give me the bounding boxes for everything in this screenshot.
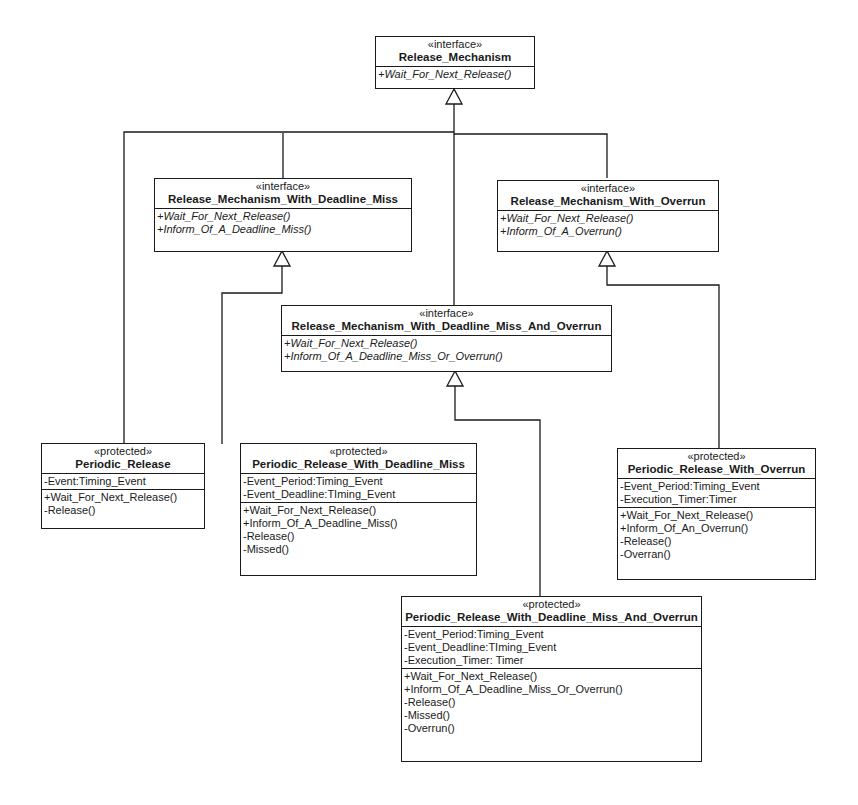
class-periodic-release: «protected» Periodic_Release -Event:Timi… [41,443,205,529]
stereotype-label: «protected» [243,445,474,458]
operations-section: +Wait_For_Next_Release() +Inform_Of_A_De… [282,336,611,364]
operation: +Inform_Of_A_Overrun() [500,225,716,238]
stereotype-label: «protected» [620,450,813,463]
attribute: -Event:Timing_Event [44,475,202,488]
operation: +Inform_Of_A_Deadline_Miss_Or_Overrun() [284,350,609,363]
operation: +Wait_For_Next_Release() [500,212,716,225]
class-name: Release_Mechanism_With_Deadline_Miss_And… [284,320,609,333]
operation: +Inform_Of_A_Deadline_Miss() [243,517,474,530]
operations-section: +Wait_For_Next_Release() +Inform_Of_A_Ov… [498,211,718,239]
stereotype-label: «interface» [284,307,609,320]
class-rm-with-deadline-miss-and-overrun: «interface» Release_Mechanism_With_Deadl… [281,305,612,372]
attributes-section: -Event_Period:Timing_Event -Event_Deadli… [402,627,701,668]
operation: -Missed() [243,543,474,556]
operation: -Missed() [404,709,699,722]
operation: +Inform_Of_A_Deadline_Miss_Or_Overrun() [404,683,699,696]
operations-section: +Wait_For_Next_Release() +Inform_Of_A_De… [241,502,476,557]
class-name: Periodic_Release_With_Overrun [620,463,813,476]
stereotype-label: «interface» [157,180,409,193]
operation: +Inform_Of_A_Deadline_Miss() [157,223,409,236]
stereotype-label: «protected» [44,445,202,458]
attribute: -Event_Period:Timing_Event [243,475,474,488]
generalization-arrow-icon [446,89,462,104]
class-name: Release_Mechanism [378,51,532,64]
operations-section: +Wait_For_Next_Release() -Release() [42,489,204,518]
class-name: Release_Mechanism_With_Overrun [500,195,716,208]
operation: +Wait_For_Next_Release() [243,504,474,517]
generalization-arrow-icon [274,251,290,266]
operations-section: +Wait_For_Next_Release() [376,67,534,82]
stereotype-label: «protected» [404,598,699,611]
class-pr-with-deadline-miss: «protected» Periodic_Release_With_Deadli… [240,443,477,576]
class-rm-with-deadline-miss: «interface» Release_Mechanism_With_Deadl… [154,178,412,252]
operation: +Wait_For_Next_Release() [378,68,532,81]
operations-section: +Wait_For_Next_Release() +Inform_Of_An_O… [618,507,815,562]
operation: -Release() [44,504,202,517]
operations-section: +Wait_For_Next_Release() +Inform_Of_A_De… [402,668,701,736]
class-release-mechanism: «interface» Release_Mechanism +Wait_For_… [375,36,535,89]
attributes-section: -Event:Timing_Event [42,474,204,489]
operation: +Wait_For_Next_Release() [620,509,813,522]
connector-pr-deadline-miss-to-rm-deadline-miss [222,266,282,444]
operation: +Wait_For_Next_Release() [404,670,699,683]
connector-rm-overrun-to-release-mechanism [454,134,607,178]
class-pr-with-overrun: «protected» Periodic_Release_With_Overru… [617,448,816,580]
class-name: Periodic_Release_With_Deadline_Miss [243,458,474,471]
attributes-section: -Event_Period:Timing_Event -Event_Deadli… [241,474,476,502]
operation: -Release() [620,535,813,548]
generalization-arrow-icon [447,371,463,386]
stereotype-label: «interface» [378,38,532,51]
operation: +Wait_For_Next_Release() [157,210,409,223]
operation: +Wait_For_Next_Release() [44,491,202,504]
attributes-section: -Event_Period:Timing_Event -Execution_Ti… [618,479,815,507]
attribute: -Execution_Timer:Timer [620,493,813,506]
class-rm-with-overrun: «interface» Release_Mechanism_With_Overr… [497,180,719,252]
connector-pr-overrun-to-rm-overrun [607,266,719,448]
operation: +Inform_Of_An_Overrun() [620,522,813,535]
stereotype-label: «interface» [500,182,716,195]
operation: -Overran() [620,548,813,561]
generalization-arrow-icon [599,251,615,266]
attribute: -Event_Deadline:TIming_Event [404,641,699,654]
attribute: -Event_Deadline:TIming_Event [243,488,474,501]
attribute: -Event_Period:Timing_Event [620,480,813,493]
operation: -Release() [243,530,474,543]
class-name: Periodic_Release [44,458,202,471]
operation: -Release() [404,696,699,709]
attribute: -Execution_Timer: Timer [404,654,699,667]
operation: +Wait_For_Next_Release() [284,337,609,350]
attribute: -Event_Period:Timing_Event [404,628,699,641]
operations-section: +Wait_For_Next_Release() +Inform_Of_A_De… [155,209,411,237]
class-name: Periodic_Release_With_Deadline_Miss_And_… [404,611,699,624]
class-name: Release_Mechanism_With_Deadline_Miss [157,193,409,206]
operation: -Overrun() [404,722,699,735]
class-pr-with-deadline-miss-and-overrun: «protected» Periodic_Release_With_Deadli… [401,596,702,762]
